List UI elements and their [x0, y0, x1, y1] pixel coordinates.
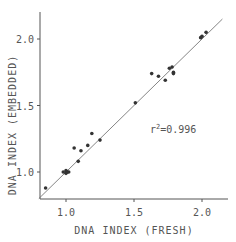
- data-point: [86, 144, 90, 148]
- y-tick-label: 1.0: [16, 167, 34, 178]
- data-point: [204, 31, 208, 35]
- x-tick-label: 1.0: [57, 207, 75, 218]
- x-tick-label: 1.5: [125, 207, 143, 218]
- data-points: [44, 31, 208, 190]
- data-point: [172, 72, 176, 76]
- y-ticks: 1.01.52.0: [16, 34, 40, 178]
- data-point: [170, 65, 174, 69]
- r-squared-annotation: r2=0.996: [150, 123, 196, 135]
- data-point: [150, 72, 154, 76]
- data-point: [67, 170, 71, 174]
- data-point: [90, 132, 94, 136]
- data-point: [98, 138, 102, 142]
- data-point: [134, 101, 138, 105]
- data-point: [72, 146, 76, 150]
- y-tick-label: 1.5: [16, 101, 34, 112]
- scatter-chart: 1.01.52.0 1.01.52.0 r2=0.996 DNA INDEX (…: [0, 0, 236, 242]
- x-axis-label: DNA INDEX (FRESH): [74, 225, 193, 236]
- data-point: [200, 35, 204, 39]
- y-tick-label: 2.0: [16, 34, 34, 45]
- x-tick-label: 2.0: [193, 207, 211, 218]
- data-point: [157, 74, 161, 78]
- data-point: [163, 78, 167, 82]
- data-point: [76, 160, 80, 164]
- data-point: [79, 149, 83, 153]
- y-axis-label: DNA INDEX (EMBEDDED): [7, 55, 18, 195]
- x-ticks: 1.01.52.0: [57, 199, 211, 218]
- data-point: [44, 186, 48, 190]
